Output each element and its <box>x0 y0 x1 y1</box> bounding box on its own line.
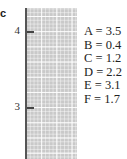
value-d: D = 2.2 <box>84 66 122 80</box>
tick-label-4: 4 <box>2 25 20 36</box>
value-a: A = 3.5 <box>84 25 122 39</box>
value-f: F = 1.7 <box>84 93 122 107</box>
value-c: C = 1.2 <box>84 52 122 66</box>
value-b: B = 0.4 <box>84 39 122 53</box>
tick-4 <box>27 31 34 33</box>
value-e: E = 3.1 <box>84 79 122 93</box>
tick-3 <box>27 107 34 109</box>
tick-label-3: 3 <box>2 101 20 112</box>
panel-label: c <box>0 8 6 19</box>
value-list: A = 3.5 B = 0.4 C = 1.2 D = 2.2 E = 3.1 … <box>84 25 122 106</box>
